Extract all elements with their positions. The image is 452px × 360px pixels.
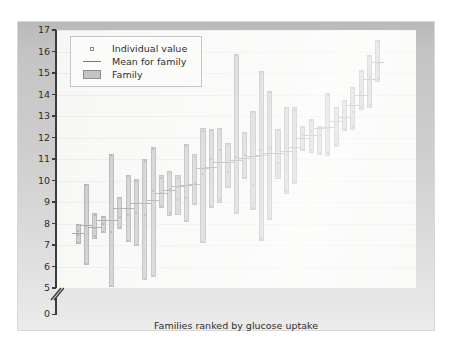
family-range-bar xyxy=(259,71,264,241)
individual-value-dot xyxy=(152,275,154,277)
individual-value-dot xyxy=(219,128,221,130)
family-range-bar xyxy=(267,91,272,220)
individual-value-dot xyxy=(252,111,254,113)
individual-value-dot xyxy=(260,149,262,151)
family-range-bar xyxy=(317,126,322,155)
family-range-bar xyxy=(151,147,156,277)
individual-value-dot xyxy=(77,242,79,244)
family-range-bar xyxy=(117,197,122,229)
family-range-bar xyxy=(217,128,222,203)
individual-value-dot xyxy=(85,184,87,186)
family-mean-line xyxy=(205,167,218,168)
individual-value-dot xyxy=(235,54,237,56)
individual-value-dot xyxy=(310,119,312,121)
individual-value-dot xyxy=(344,128,346,130)
individual-value-dot xyxy=(319,152,321,154)
individual-value-dot xyxy=(344,100,346,102)
individual-value-dot xyxy=(352,87,354,89)
individual-value-dot xyxy=(227,171,229,173)
family-mean-line xyxy=(330,121,343,122)
family-mean-line xyxy=(313,128,326,129)
individual-value-dot xyxy=(369,55,371,57)
family-range-bar xyxy=(175,175,180,215)
family-mean-line xyxy=(122,208,135,209)
individual-value-dot xyxy=(377,63,379,65)
individual-value-dot xyxy=(277,175,279,177)
individual-value-dot xyxy=(285,107,287,109)
individual-value-dot xyxy=(277,162,279,164)
legend-label: Individual value xyxy=(112,44,187,54)
x-axis-title: Families ranked by glucose uptake xyxy=(56,320,416,331)
individual-value-dot xyxy=(210,158,212,160)
individual-value-dot xyxy=(235,212,237,214)
individual-value-dot xyxy=(352,126,354,128)
individual-value-dot xyxy=(77,224,79,226)
individual-value-dot xyxy=(269,91,271,93)
family-mean-line xyxy=(296,138,309,139)
individual-value-dot xyxy=(344,117,346,119)
individual-value-dot xyxy=(177,199,179,201)
family-mean-line xyxy=(147,200,160,201)
individual-value-dot xyxy=(260,238,262,240)
family-mean-line xyxy=(305,135,318,136)
individual-value-dot xyxy=(194,156,196,158)
y-tick-label: 13 xyxy=(38,111,50,121)
family-range-bar xyxy=(234,54,239,214)
family-mean-line xyxy=(221,162,234,163)
individual-value-dot xyxy=(177,177,179,179)
individual-value-dot xyxy=(102,216,104,218)
family-box-icon xyxy=(79,70,105,79)
family-range-bar xyxy=(225,143,230,188)
individual-value-dot xyxy=(352,111,354,113)
family-mean-line xyxy=(230,160,243,161)
individual-value-dot xyxy=(327,128,329,130)
y-tick xyxy=(52,72,56,74)
y-tick-label: 16 xyxy=(38,47,50,57)
family-range-bar xyxy=(142,159,147,280)
individual-value-dot xyxy=(377,40,379,42)
individual-value-dot xyxy=(177,186,179,188)
y-tick xyxy=(52,223,56,225)
y-tick xyxy=(52,51,56,53)
individual-value-dot xyxy=(360,70,362,72)
individual-value-dot xyxy=(94,227,96,229)
individual-value-dot xyxy=(169,171,171,173)
individual-value-dot xyxy=(85,225,87,227)
family-range-bar xyxy=(192,154,197,206)
y-tick xyxy=(52,244,56,246)
legend-item-individual-value: Individual value xyxy=(79,42,187,55)
y-tick-label: 10 xyxy=(38,176,50,186)
individual-value-dot xyxy=(102,223,104,225)
individual-value-dot xyxy=(144,278,146,280)
family-range-bar xyxy=(334,107,339,147)
individual-value-dot xyxy=(294,109,296,111)
individual-value-dot xyxy=(327,94,329,96)
family-range-bar xyxy=(375,40,380,82)
y-tick xyxy=(52,29,56,31)
y-tick xyxy=(52,314,56,316)
individual-value-dot xyxy=(185,197,187,199)
individual-value-dot xyxy=(119,216,121,218)
individual-value-dot xyxy=(369,104,371,106)
individual-value-dot xyxy=(202,173,204,175)
family-range-bar xyxy=(275,129,280,180)
family-mean-line xyxy=(196,168,209,169)
y-tick xyxy=(52,115,56,117)
individual-value-dot xyxy=(335,143,337,145)
individual-value-dot xyxy=(144,160,146,162)
individual-value-dot xyxy=(219,199,221,201)
family-range-bar xyxy=(200,128,205,243)
individual-value-dot xyxy=(169,188,171,190)
y-tick-label: 14 xyxy=(38,90,50,100)
legend-item-mean-for-family: Mean for family xyxy=(79,55,187,68)
individual-value-dot xyxy=(160,205,162,207)
individual-value-dot xyxy=(160,177,162,179)
family-mean-line xyxy=(355,95,368,96)
family-mean-line xyxy=(363,79,376,80)
family-range-bar xyxy=(359,70,364,110)
plot-area: Individual value Mean for family Family xyxy=(56,30,416,288)
individual-value-dot xyxy=(244,132,246,134)
family-mean-line xyxy=(180,185,193,186)
plot-wrapper: Individual value Mean for family Family … xyxy=(56,30,416,305)
legend-item-family: Family xyxy=(79,68,187,81)
